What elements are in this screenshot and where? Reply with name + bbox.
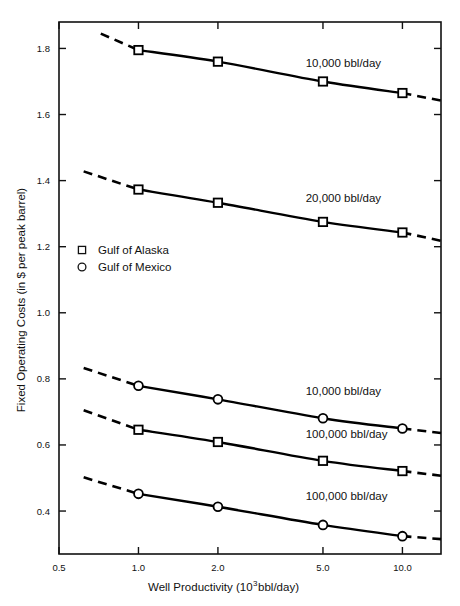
chart-figure: 0.40.60.81.01.21.41.61.8 0.51.02.05.010.…: [0, 0, 460, 606]
data-point-marker: [134, 426, 142, 434]
y-tick-label: 0.6: [37, 439, 50, 450]
x-tick-label: 1.0: [132, 562, 145, 573]
y-tick-label: 0.8: [37, 373, 50, 384]
x-axis-title-base: Well Productivity (10: [148, 581, 253, 593]
data-point-marker: [214, 395, 223, 404]
data-point-marker: [214, 438, 222, 446]
data-point-marker: [319, 457, 327, 465]
curve-annotation-label: 10,000 bbl/day: [306, 57, 382, 69]
x-tick-label: 10.0: [393, 562, 412, 573]
x-tick-label: 0.5: [52, 562, 65, 573]
data-point-marker: [214, 199, 222, 207]
data-point-marker: [214, 502, 223, 511]
legend-item-label: Gulf of Mexico: [98, 261, 172, 273]
x-tick-label: 5.0: [316, 562, 329, 573]
y-tick-label: 1.2: [37, 241, 50, 252]
data-point-marker: [398, 89, 406, 97]
x-axis-title: Well Productivity (10 3 bbl/day): [148, 579, 299, 593]
data-point-marker: [134, 185, 142, 193]
legend-item-label: Gulf of Alaska: [98, 244, 170, 256]
legend-marker-square: [78, 246, 85, 253]
y-axis-title: Fixed Operating Costs (in $ per peak bar…: [15, 188, 27, 413]
x-axis-title-tail: bbl/day): [258, 581, 299, 593]
data-point-marker: [398, 532, 407, 541]
data-point-marker: [134, 489, 143, 498]
y-tick-label: 0.4: [37, 506, 50, 517]
legend-marker-circle: [78, 263, 86, 271]
data-point-marker: [319, 77, 327, 85]
data-point-marker: [134, 46, 142, 54]
data-point-marker: [319, 218, 327, 226]
data-point-marker: [134, 381, 143, 390]
data-point-marker: [398, 467, 406, 475]
fixed-operating-costs-chart: 0.40.60.81.01.21.41.61.8 0.51.02.05.010.…: [0, 0, 460, 606]
data-point-marker: [319, 414, 328, 423]
x-tick-label: 2.0: [211, 562, 224, 573]
data-point-marker: [214, 57, 222, 65]
y-tick-label: 1.0: [37, 307, 50, 318]
curve-annotation-label: 10,000 bbl/day: [306, 385, 382, 397]
data-point-marker: [319, 521, 328, 530]
data-point-marker: [398, 424, 407, 433]
curve-annotation-label: 20,000 bbl/day: [306, 192, 382, 204]
y-tick-label: 1.6: [37, 109, 50, 120]
y-tick-label: 1.8: [37, 43, 50, 54]
curve-annotation-label: 100,000 bbl/day: [306, 428, 388, 440]
y-tick-label: 1.4: [37, 175, 50, 186]
data-point-marker: [398, 228, 406, 236]
curve-annotation-label: 100,000 bbl/day: [306, 490, 388, 502]
